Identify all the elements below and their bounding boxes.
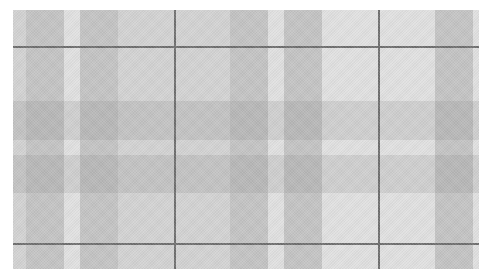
weave-texture (13, 10, 479, 269)
plaid-fabric (13, 10, 479, 269)
